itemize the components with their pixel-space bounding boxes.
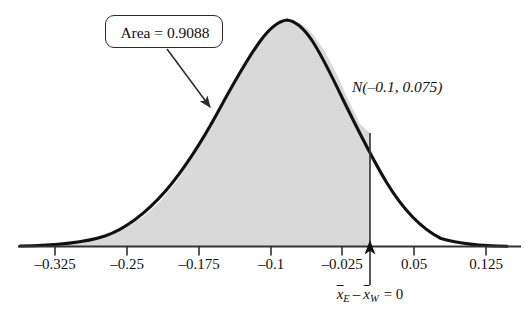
minus-sign: –: [350, 286, 364, 302]
equals-zero: = 0: [379, 286, 404, 302]
x-tick-label-2: –0.175: [178, 256, 219, 273]
callout-leader-line: [167, 49, 210, 107]
distribution-label: N(–0.1, 0.075): [352, 78, 442, 96]
x-tick-label-6: 0.125: [469, 256, 503, 273]
shaded-area: [20, 20, 370, 246]
normal-distribution-figure: Area = 0.9088 N(–0.1, 0.075) –0.325 –0.2…: [0, 0, 525, 312]
x-bar-west: x: [363, 286, 370, 303]
x-tick-label-5: 0.05: [401, 256, 427, 273]
x-tick-label-1: –0.25: [110, 256, 144, 273]
x-bar-east: x: [337, 286, 344, 303]
x-tick-label-3: –0.1: [258, 256, 284, 273]
x-tick-label-0: –0.325: [34, 256, 75, 273]
x-axis-ticks: [55, 247, 486, 256]
area-callout-label: Area = 0.9088: [106, 16, 224, 49]
boundary-annotation: xE–xW= 0: [337, 286, 404, 304]
subscript-west: W: [370, 293, 379, 304]
x-tick-label-4: –0.025: [321, 256, 362, 273]
area-callout-box: Area = 0.9088: [105, 15, 223, 48]
